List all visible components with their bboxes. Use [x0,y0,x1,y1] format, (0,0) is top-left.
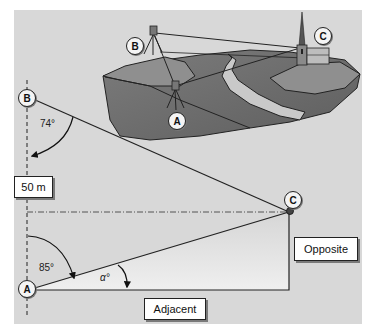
right-triangle [28,212,289,290]
point-c-label: C [284,191,302,209]
point-a-label: A [18,280,36,298]
scene-label-c: C [314,27,332,45]
scene-label-b: B [126,37,144,55]
adjacent-label: Adjacent [144,298,206,320]
angle-b-text: 74° [40,118,55,129]
angle-a-text: 85° [39,262,54,273]
baseline-length-label: 50 m [14,176,53,198]
tripod-b-icon [144,26,162,55]
angle-alpha-text: α° [100,272,110,283]
opposite-label: Opposite [294,237,358,261]
point-b-label: B [18,89,36,107]
diagram-canvas [0,0,373,336]
scene-label-a: A [168,112,186,130]
